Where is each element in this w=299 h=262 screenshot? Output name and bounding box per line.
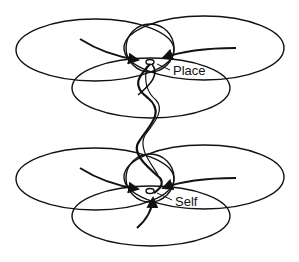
bottom-ellipse bbox=[72, 186, 230, 246]
place-label: Place bbox=[173, 63, 206, 78]
left-path bbox=[80, 168, 138, 189]
bottom-ellipse bbox=[72, 58, 230, 118]
self-label: Self bbox=[175, 194, 198, 209]
self-network bbox=[16, 145, 284, 246]
place-network bbox=[16, 16, 284, 118]
self-node bbox=[146, 189, 154, 194]
diagram-canvas: Place Self bbox=[0, 0, 299, 262]
center-circle bbox=[126, 154, 174, 202]
twisted-strand-connector bbox=[137, 64, 162, 193]
left-path bbox=[80, 39, 138, 60]
